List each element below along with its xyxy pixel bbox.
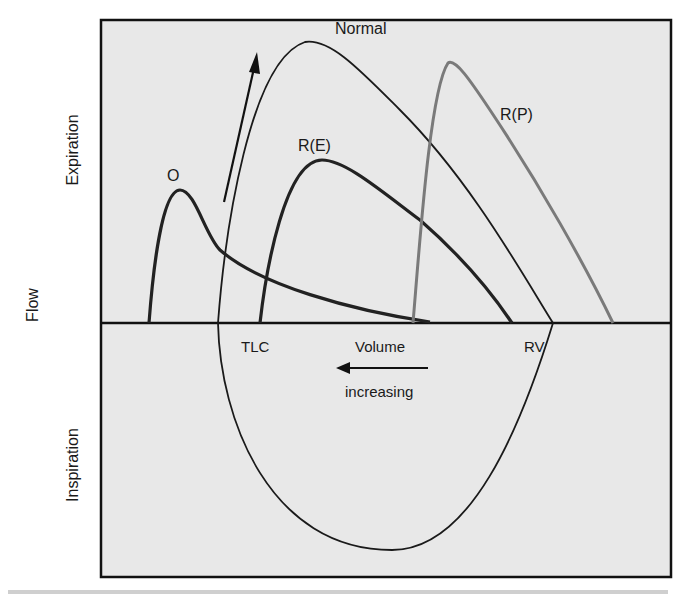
label-rv: RV: [524, 338, 545, 355]
label-obstructive: O: [167, 167, 179, 184]
label-normal: Normal: [335, 20, 387, 37]
label-restrictive-e: R(E): [298, 137, 331, 154]
label-expiration: Expiration: [64, 114, 81, 185]
label-restrictive-p: R(P): [500, 106, 533, 123]
flow-volume-diagram: Normal O R(E) R(P) TLC Volume RV increas…: [0, 0, 684, 594]
plot-frame: [101, 20, 671, 577]
label-flow: Flow: [24, 288, 41, 322]
label-inspiration: Inspiration: [64, 428, 81, 502]
truncated-caption: [8, 590, 668, 594]
label-volume: Volume: [355, 338, 405, 355]
label-tlc: TLC: [241, 338, 270, 355]
label-increasing: increasing: [345, 383, 413, 400]
